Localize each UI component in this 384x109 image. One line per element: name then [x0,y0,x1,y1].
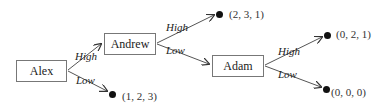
node-andrew-label: Andrew [111,37,150,52]
payoff-adam-low: (0, 0, 0) [331,86,366,98]
terminal-dot-icon [109,91,116,98]
node-alex: Alex [16,60,67,82]
edge-label-alex-high: High [75,50,97,62]
payoff-adam-high: (0, 2, 1) [336,28,371,40]
payoff-alex-low: (1, 2, 3) [122,90,157,102]
node-alex-label: Alex [30,64,53,79]
edge-label-andrew-low: Low [166,44,185,56]
terminal-dot-icon [324,32,331,39]
payoff-andrew-high: (2, 3, 1) [229,8,264,20]
edge-label-adam-high: High [278,45,300,57]
edge-label-andrew-high: High [166,21,188,33]
game-tree-diagram: Alex Andrew Adam High Low High Low High … [0,0,384,109]
edge-label-adam-low: Low [278,68,297,80]
terminal-dot-icon [323,86,330,93]
terminal-dot-icon [216,11,223,18]
edge-label-alex-low: Low [76,74,95,86]
node-adam-label: Adam [223,59,252,74]
node-adam: Adam [212,55,264,77]
node-andrew: Andrew [104,33,156,55]
